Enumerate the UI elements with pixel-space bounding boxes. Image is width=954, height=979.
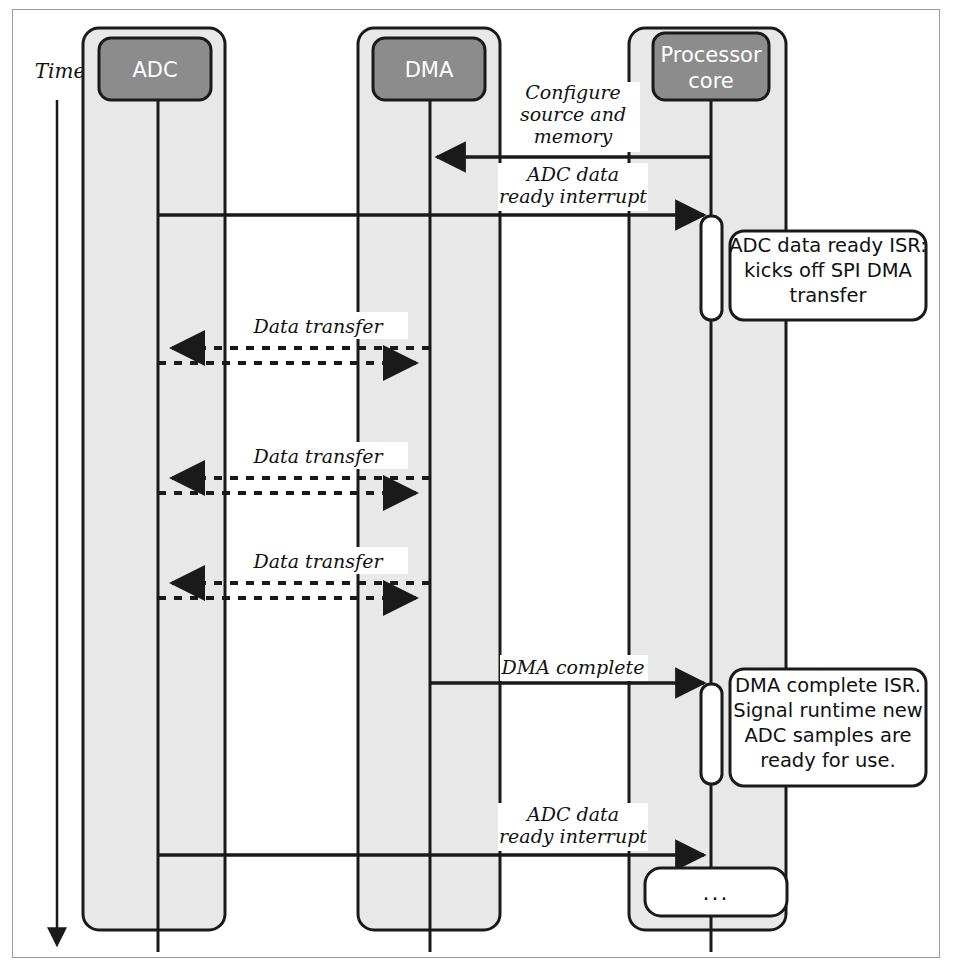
participant-label-dma: DMA (405, 58, 454, 82)
note-n1-line3: transfer (789, 284, 867, 307)
time-axis-group: Time (35, 59, 86, 944)
lifeline-lane-adc: ADC (83, 28, 225, 952)
note-n2-line4: ready for use. (760, 749, 895, 772)
activation-bar-cpu-2 (701, 684, 722, 784)
note-n1-line2: kicks off SPI DMA (744, 259, 913, 282)
note-n1-line1: ADC data ready ISR: (729, 234, 927, 257)
message-label-m6: DMA complete (501, 656, 645, 678)
message-label-m5: Data transfer (253, 550, 385, 572)
participant-label-cpu-line2: core (688, 69, 734, 93)
message-label-m7-line1: ADC data (525, 803, 619, 825)
note-adc-data-ready-isr: ADC data ready ISR: kicks off SPI DMA tr… (729, 231, 927, 320)
message-label-m1-line1: Configure (525, 81, 621, 103)
note-dma-complete-isr: DMA complete ISR. Signal runtime new ADC… (730, 669, 926, 786)
activation-ellipsis-group: ... (645, 868, 787, 916)
activation-bar-cpu-1 (701, 216, 722, 320)
lifeline-lane-dma: DMA (358, 28, 500, 952)
time-axis-label: Time (35, 59, 86, 83)
note-n2-line2: Signal runtime new (733, 699, 922, 722)
sequence-diagram-canvas: Time ADC DMA Processor core (0, 0, 954, 979)
message-label-m2-line1: ADC data (525, 163, 619, 185)
sequence-diagram-page: Time ADC DMA Processor core (0, 0, 954, 979)
note-n2-line3: ADC samples are (745, 724, 912, 747)
message-label-m1-line2: source and (520, 103, 626, 125)
message-label-m7-line2: ready interrupt (499, 825, 647, 847)
note-n2-line1: DMA complete ISR. (735, 674, 921, 697)
ellipsis-label: ... (703, 880, 730, 905)
message-label-m1-line3: memory (534, 125, 613, 147)
lane-background-cpu (629, 28, 786, 930)
participant-label-adc: ADC (132, 58, 177, 82)
lifeline-lane-cpu: Processor core (629, 28, 786, 952)
participant-label-cpu-line1: Processor (660, 43, 762, 67)
message-label-m2-line2: ready interrupt (499, 185, 647, 207)
message-label-m4: Data transfer (253, 445, 385, 467)
message-label-m3: Data transfer (253, 315, 385, 337)
